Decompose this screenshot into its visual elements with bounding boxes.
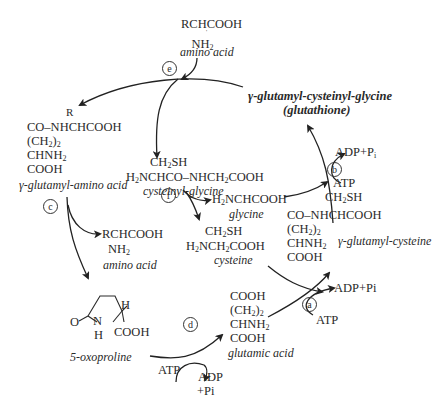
gamma-glutamyl-cysteine-sidechain: CH2SH [325,190,362,204]
amino-acid-top-label: amino acid [180,45,234,59]
b-input-atp: ATP [333,176,355,190]
d-input-atp: ATP [158,363,180,377]
arrow-d-to-glutamic-acid [150,335,222,358]
glutamic-acid: COOH (CH2)2 CHNH2 COOH [230,289,269,345]
oxoproline-n: N [93,314,102,328]
cysteine-sidechain: CH2SH [205,224,242,238]
glutamic-acid-label: glutamic acid [228,346,294,360]
arrow-c-to-oxoproline [67,197,88,278]
step-a-marker: a [302,297,317,312]
d-output-adp: ADP [198,370,223,384]
arrow-amino-acid-in [182,58,197,79]
glutathione-alias: (glutathione) [283,103,350,117]
arrow-c-to-amino-acid [68,205,100,234]
glutathione-label: γ-glutamyl-cysteinyl-glycine [248,89,392,103]
oxoproline-cooh: COOH [114,325,149,339]
oxoproline-label: 5-oxoproline [70,350,132,364]
a-output-adp-pi: ADP+Pi [334,281,376,295]
arrow-e-to-cysteinyl-glycine [156,79,178,157]
gamma-glutamyl-amino-acid: CO–NHCHCOOH (CH2)2 CHNH2 COOH [27,120,121,176]
step-d-marker: d [183,317,198,332]
gamma-glutamyl-cycle-diagram: RCHCOOH ˈ NH2 amino acid e γ-glutamyl-cy… [0,0,442,408]
d-output-pi: +Pi [197,384,214,398]
cysteine-label: cysteine [214,253,253,267]
step-e-marker: e [162,61,177,76]
cysteine-formula: H2NCH2COOH [186,239,265,253]
gamma-glutamyl-cysteine-label: γ-glutamyl-cysteine [338,234,431,248]
amino-acid-mid-formula: RCHCOOH [102,227,163,241]
oxoproline-h: H [121,298,130,312]
step-c-marker: c [43,199,58,214]
cysteinyl-glycine-formula: H2NCHCO–NHCH2COOH [126,170,264,184]
oxoproline-o: O [70,315,79,329]
step-f-marker: f [161,188,176,203]
a-input-atp: ATP [316,313,338,327]
step-b-marker: b [327,162,342,177]
arrow-glycine-to-b [284,182,327,197]
cysteinyl-glycine-sidechain: CH2SH [150,155,187,169]
oxoproline-nh: H [94,328,103,342]
gamma-glutamyl-amino-acid-label: γ-glutamyl-amino acid [19,178,127,192]
glycine-label: glycine [229,207,264,221]
r-group: R [66,105,73,119]
amino-acid-mid-label: amino acid [103,258,157,272]
oxoproline-ring [79,296,127,322]
arrow-a-to-glutamyl-cysteine [268,273,329,317]
formula: RCHCOOH [181,17,242,31]
amino-acid-mid-substituent: NH2 [108,242,130,256]
b-output-adp-pi: ADP+Pi [335,145,376,159]
glycine-formula: H2NCHCOOH [212,192,287,206]
